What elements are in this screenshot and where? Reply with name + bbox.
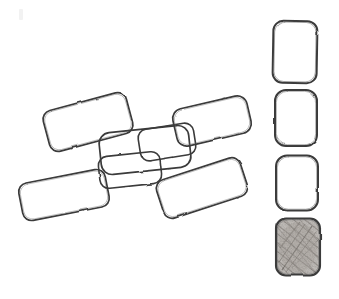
rect-upper-left xyxy=(41,91,135,154)
rect-center-large xyxy=(98,124,192,175)
column-rect-2 xyxy=(275,90,317,146)
paper-smudge-mark xyxy=(19,9,23,20)
column-rect-4-shaded xyxy=(274,216,322,277)
column-rect-3 xyxy=(276,156,318,211)
column-rect-1 xyxy=(272,21,317,84)
rect-center-small-right xyxy=(137,122,197,162)
rect-lower-left xyxy=(17,168,111,222)
stacked-rectangles-column xyxy=(272,21,322,277)
sketch-drawing xyxy=(0,0,339,299)
rect-lower-right xyxy=(154,155,250,220)
rect-upper-right xyxy=(171,94,254,148)
sketch-canvas xyxy=(0,0,339,299)
scattered-rectangles-group xyxy=(17,91,253,222)
